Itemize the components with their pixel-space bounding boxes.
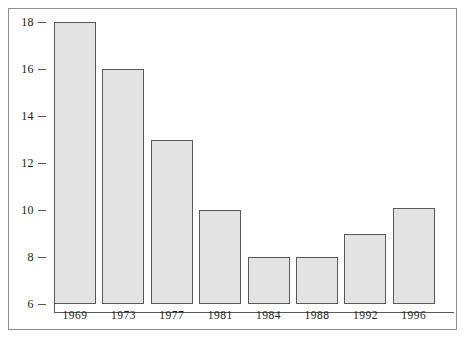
y-axis-tick-label: 18 [9,15,34,30]
y-axis-tick [38,257,46,258]
figure-frame: 681012141618 196919731977198119841988199… [8,8,457,330]
y-axis-tick-label: 6 [9,297,34,312]
x-axis-tick-label: 1973 [96,309,150,321]
bar [151,140,193,305]
y-axis-tick-label: 14 [9,109,34,124]
y-axis-tick [38,69,46,70]
x-axis-tick-label: 1984 [242,309,296,321]
x-axis-tick-label: 1981 [193,309,247,321]
bar [54,22,96,304]
x-axis-tick-label: 1969 [48,309,102,321]
y-axis-tick [38,22,46,23]
x-axis-tick-label: 1988 [290,309,344,321]
bar [393,208,435,304]
y-axis-tick [38,304,46,305]
bar [199,210,241,304]
y-axis-tick-label: 10 [9,203,34,218]
bar [248,257,290,304]
bar [102,69,144,304]
y-axis-tick-label: 8 [9,250,34,265]
x-axis-tick-label: 1977 [145,309,199,321]
x-axis-tick-label: 1992 [338,309,392,321]
bar [296,257,338,304]
y-axis-tick-label: 12 [9,156,34,171]
x-axis-tick-label: 1996 [387,309,441,321]
y-axis-tick [38,163,46,164]
y-axis-tick-label: 16 [9,62,34,77]
y-axis-tick [38,116,46,117]
chart-page: 681012141618 196919731977198119841988199… [0,0,465,338]
y-axis-tick [38,210,46,211]
bar [344,234,386,305]
